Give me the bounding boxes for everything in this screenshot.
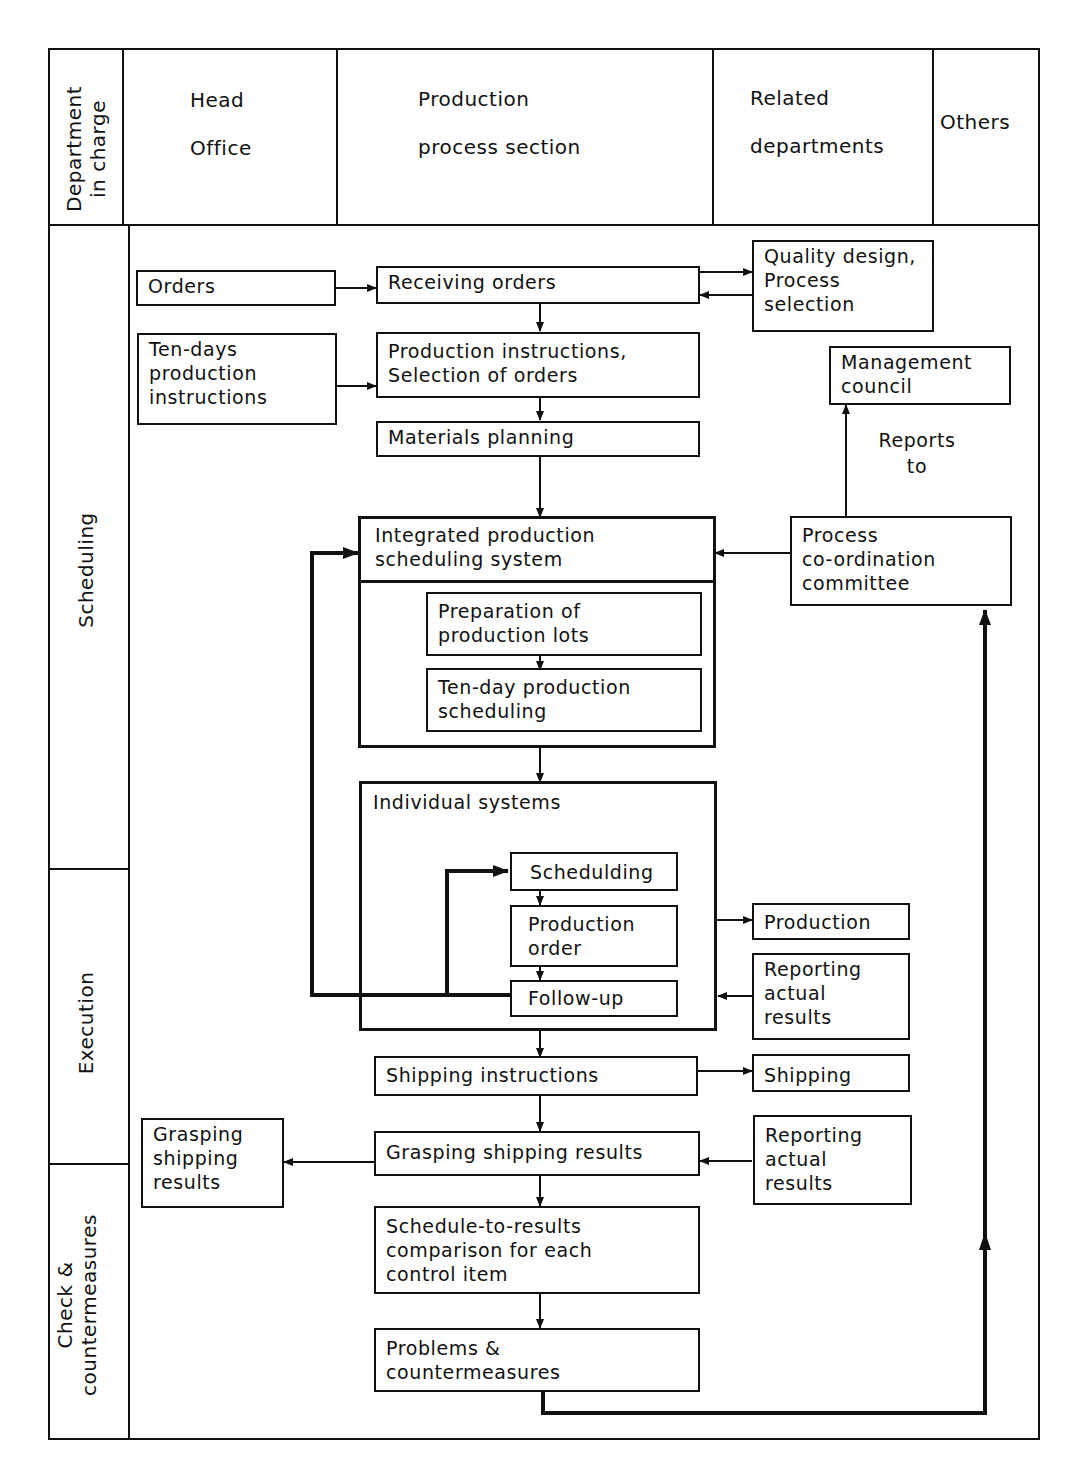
node-shipping-instructions: Shipping instructions: [374, 1056, 698, 1096]
node-materials-planning: Materials planning: [376, 421, 700, 457]
node-grasping-head-office: Grasping shipping results: [141, 1118, 284, 1208]
node-production: Production: [752, 903, 910, 940]
node-integrated-system: Integrated production scheduling system: [358, 516, 716, 583]
node-production-order: Production order: [510, 905, 678, 967]
node-production-instructions: Production instructions, Selection of or…: [376, 332, 700, 398]
node-reporting-actual-2: Reporting actual results: [753, 1115, 912, 1205]
node-quality-design: Quality design, Process selection: [752, 240, 934, 332]
node-receiving-orders: Receiving orders: [376, 266, 700, 304]
label-reports-to: Reports to: [862, 427, 972, 479]
node-grasping-shipping-results: Grasping shipping results: [374, 1131, 700, 1176]
label-individual-systems: Individual systems: [373, 789, 561, 815]
node-shipping: Shipping: [752, 1054, 910, 1092]
node-ten-days-instructions: Ten-days production instructions: [137, 333, 337, 425]
node-schedulding: Schedulding: [510, 852, 678, 891]
node-management-council: Management council: [829, 346, 1011, 405]
node-preparation-lots: Preparation of production lots: [426, 592, 702, 656]
node-reporting-actual-1: Reporting actual results: [752, 953, 910, 1040]
node-ten-day-scheduling: Ten-day production scheduling: [426, 668, 702, 732]
node-orders: Orders: [136, 270, 336, 306]
node-follow-up: Follow-up: [510, 980, 678, 1017]
node-problems-countermeasures: Problems & countermeasures: [374, 1328, 700, 1392]
node-process-committee: Process co-ordination committee: [790, 516, 1012, 606]
node-schedule-comparison: Schedule-to-results comparison for each …: [374, 1206, 700, 1294]
